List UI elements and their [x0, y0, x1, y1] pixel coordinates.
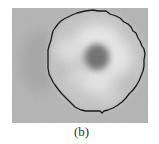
panel-caption: (b) [2, 124, 159, 140]
cell-micrograph [12, 8, 148, 123]
image-grain [12, 8, 148, 123]
figure-panel: (b) [0, 0, 159, 144]
